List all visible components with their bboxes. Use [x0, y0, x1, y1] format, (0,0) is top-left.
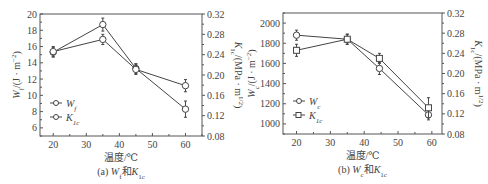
x-tick-label: 20: [292, 137, 302, 148]
y-right-tick-label: 0.08: [207, 131, 225, 142]
y-right-tick-label: 0.24: [447, 48, 465, 59]
y-right-axis-title: K1c/(MPa · m1/2): [469, 39, 485, 107]
series-line-Wf: [53, 25, 185, 110]
circle-marker-icon: [182, 106, 188, 112]
chart-panel-a: 2030405060681012141618200.080.120.160.20…: [0, 0, 244, 184]
chart-b-plot: 20304050601000120014001600180020000.080.…: [244, 0, 488, 184]
y-right-tick-label: 0.28: [447, 28, 465, 39]
y-right-tick-label: 0.16: [207, 90, 225, 101]
y-left-tick-label: 6: [32, 122, 37, 133]
x-tick-label: 50: [147, 139, 157, 150]
y-left-tick-label: 1200: [260, 98, 280, 109]
square-marker-icon: [376, 55, 382, 61]
x-tick-label: 40: [359, 137, 369, 148]
x-tick-label: 30: [325, 137, 335, 148]
legend-circle-icon: [297, 99, 302, 104]
square-marker-icon: [294, 47, 300, 53]
y-right-tick-label: 0.32: [447, 8, 465, 19]
y-left-tick-label: 14: [27, 57, 37, 68]
y-right-tick-label: 0.24: [207, 49, 225, 60]
square-marker-icon: [425, 105, 431, 111]
x-tick-label: 20: [48, 139, 58, 150]
legend-circle-icon: [54, 115, 59, 120]
y-left-tick-label: 12: [27, 74, 37, 85]
plot-frame: [40, 14, 202, 136]
x-tick-label: 60: [427, 137, 437, 148]
x-axis-title: 温度/℃: [104, 151, 138, 163]
y-left-axis-title: Wf/(J · m−2): [10, 51, 26, 99]
circle-marker-icon: [182, 82, 188, 88]
y-left-tick-label: 2000: [260, 18, 280, 29]
y-left-tick-label: 18: [27, 25, 37, 36]
y-left-tick-label: 20: [27, 9, 37, 20]
x-axis-title: 温度/℃: [346, 149, 380, 161]
y-left-tick-label: 10: [27, 90, 37, 101]
circle-marker-icon: [133, 66, 139, 72]
y-left-tick-label: 1000: [260, 118, 280, 129]
circle-marker-icon: [50, 48, 56, 54]
y-right-tick-label: 0.28: [207, 29, 225, 40]
y-right-tick-label: 0.16: [447, 88, 465, 99]
y-right-tick-label: 0.12: [207, 110, 225, 121]
figure-caption: (b) Wc和K1c: [338, 164, 387, 179]
square-marker-icon: [344, 36, 350, 42]
circle-marker-icon: [100, 21, 106, 27]
y-left-tick-label: 1600: [260, 58, 280, 69]
circle-marker-icon: [293, 32, 299, 38]
chart-a-plot: 2030405060681012141618200.080.120.160.20…: [0, 0, 244, 184]
x-tick-label: 50: [393, 137, 403, 148]
figure-caption: (a) Wf和K1c: [97, 166, 145, 181]
y-right-tick-label: 0.20: [207, 70, 225, 81]
circle-marker-icon: [376, 65, 382, 71]
y-right-tick-label: 0.12: [447, 108, 465, 119]
legend-label: Wc: [309, 96, 321, 111]
legend-label: K1c: [308, 110, 323, 125]
plot-frame: [283, 13, 442, 134]
y-left-tick-label: 1800: [260, 38, 280, 49]
y-right-axis-title: K1c/(MPa · m1/2): [229, 41, 244, 109]
y-left-tick-label: 16: [27, 41, 37, 52]
legend-label: K1c: [65, 112, 80, 127]
y-left-tick-label: 1400: [260, 78, 280, 89]
x-tick-label: 30: [81, 139, 91, 150]
legend-label: Wf: [66, 98, 77, 113]
y-right-tick-label: 0.08: [447, 129, 465, 140]
y-right-tick-label: 0.20: [447, 68, 465, 79]
y-right-tick-label: 0.32: [207, 9, 225, 20]
chart-panel-b: 20304050601000120014001600180020000.080.…: [244, 0, 488, 184]
y-left-axis-title: Wc/(J · m−2): [245, 49, 261, 97]
y-left-tick-label: 8: [32, 106, 37, 117]
legend-square-icon: [296, 113, 301, 118]
x-tick-label: 60: [180, 139, 190, 150]
x-tick-label: 40: [114, 139, 124, 150]
circle-marker-icon: [100, 36, 106, 42]
legend-circle-icon: [54, 101, 59, 106]
